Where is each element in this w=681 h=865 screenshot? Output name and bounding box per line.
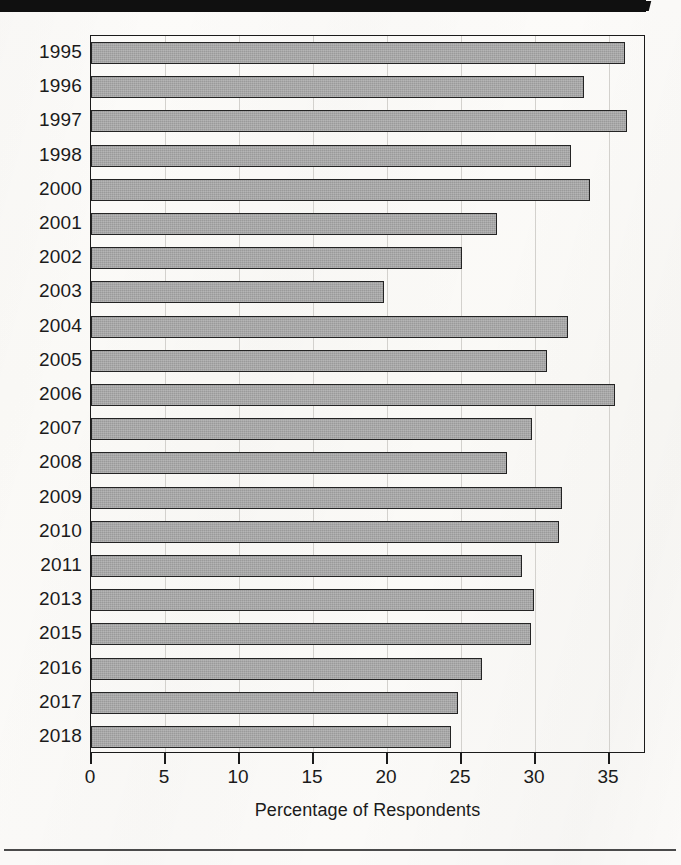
x-axis-tick-label: 20 [375,766,396,788]
x-axis-tick-label: 15 [301,766,322,788]
y-axis-tick-label: 2010 [4,520,82,542]
x-axis-tick [386,753,388,764]
y-axis-tick-label: 2007 [4,417,82,439]
bars-layer [91,36,644,752]
bar [91,521,559,543]
x-axis-tick [534,753,536,764]
y-axis-tick-label: 1996 [4,75,82,97]
x-axis-tick-label: 10 [227,766,248,788]
plot-frame [90,35,645,753]
y-axis-tick-label: 2013 [4,588,82,610]
y-axis-tick-label: 2016 [4,657,82,679]
x-axis-tick-label: 0 [85,766,96,788]
bar [91,76,584,98]
y-axis-tick-label: 2011 [4,554,82,576]
bar [91,213,497,235]
bar-chart: 1995199619971998200020012002200320042005… [0,0,681,865]
y-axis-tick-label: 2005 [4,349,82,371]
bar [91,487,562,509]
bar [91,384,615,406]
y-axis-tick-label: 2001 [4,212,82,234]
bar [91,555,522,577]
y-axis-tick-label: 2002 [4,246,82,268]
x-axis-tick-label: 35 [597,766,618,788]
x-axis-tick [460,753,462,764]
x-axis-tick [90,753,92,764]
y-axis-tick-label: 2006 [4,383,82,405]
y-axis-tick-label: 1998 [4,144,82,166]
x-axis-tick [238,753,240,764]
bar [91,418,532,440]
bar [91,247,462,269]
y-axis-tick-label: 2008 [4,451,82,473]
x-axis-tick [312,753,314,764]
bar [91,589,534,611]
x-axis-tick-labels: 05101520253035 [0,766,681,792]
y-axis-tick-label: 1997 [4,109,82,131]
bar [91,623,531,645]
x-axis-ticks [90,753,645,764]
bar [91,726,451,748]
y-axis-labels: 1995199619971998200020012002200320042005… [0,35,82,753]
y-axis-tick-label: 2000 [4,178,82,200]
y-axis-tick-label: 2009 [4,486,82,508]
bar [91,692,458,714]
y-axis-tick-label: 2018 [4,725,82,747]
y-axis-tick-label: 2004 [4,315,82,337]
bar [91,350,547,372]
y-axis-tick-label: 2015 [4,622,82,644]
x-axis-tick [608,753,610,764]
x-axis-tick-label: 5 [159,766,170,788]
x-axis-tick-label: 30 [523,766,544,788]
bottom-rule [4,849,676,851]
x-axis-title: Percentage of Respondents [90,800,645,821]
bar [91,110,627,132]
bar [91,452,507,474]
y-axis-tick-label: 2017 [4,691,82,713]
bar [91,281,384,303]
bar [91,179,590,201]
y-axis-tick-label: 1995 [4,41,82,63]
x-axis-tick [164,753,166,764]
x-axis-tick-label: 25 [449,766,470,788]
bar [91,42,625,64]
bar [91,145,571,167]
bar [91,316,568,338]
y-axis-tick-label: 2003 [4,280,82,302]
bar [91,658,482,680]
